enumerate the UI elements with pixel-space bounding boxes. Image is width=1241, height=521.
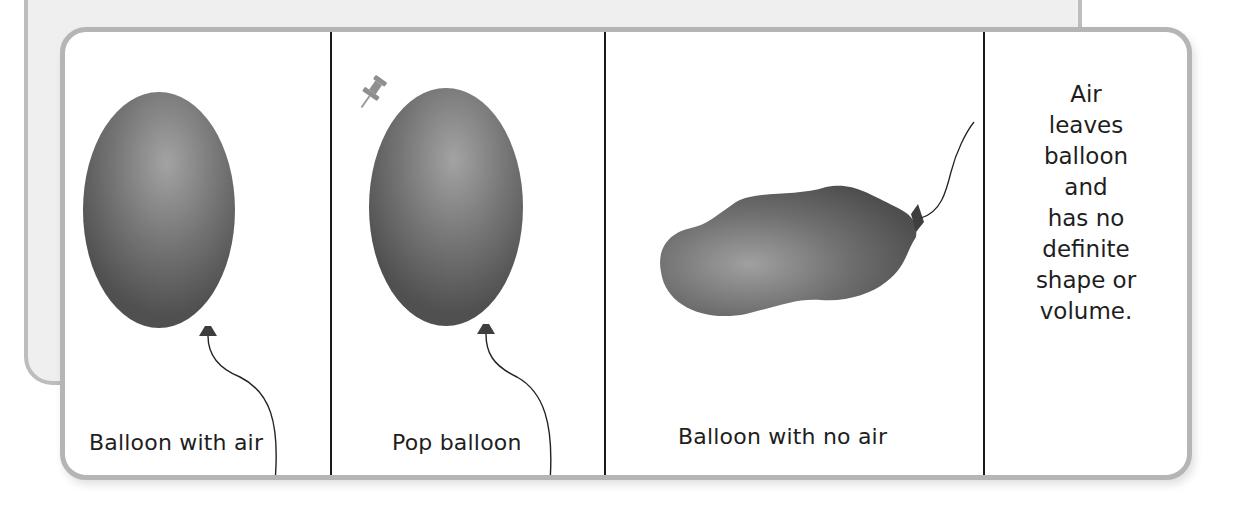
inflated-balloon-icon xyxy=(65,32,330,480)
explanation-line: volume. xyxy=(985,296,1187,327)
panel-balloon-with-air: Balloon with air xyxy=(65,32,330,475)
explanation-line: Air xyxy=(985,79,1187,110)
panel-explanation: Air leaves balloon and has no definite s… xyxy=(985,32,1187,475)
explanation-line: balloon xyxy=(985,141,1187,172)
caption-pop-balloon: Pop balloon xyxy=(392,430,522,455)
explanation-line: shape or xyxy=(985,265,1187,296)
explanation-line: definite xyxy=(985,234,1187,265)
explanation-line: and xyxy=(985,172,1187,203)
deflated-balloon-icon xyxy=(606,32,983,480)
panel-balloon-with-no-air: Balloon with no air xyxy=(606,32,983,475)
explanation-text: Air leaves balloon and has no definite s… xyxy=(985,79,1187,327)
caption-balloon-with-air: Balloon with air xyxy=(89,430,263,455)
explanation-line: leaves xyxy=(985,110,1187,141)
explanation-line: has no xyxy=(985,203,1187,234)
caption-balloon-with-no-air: Balloon with no air xyxy=(678,424,887,449)
pushpin-icon xyxy=(356,72,416,122)
diagram-card: Balloon with air Pop ballo xyxy=(60,27,1192,480)
panel-pop-balloon: Pop balloon xyxy=(332,32,604,475)
